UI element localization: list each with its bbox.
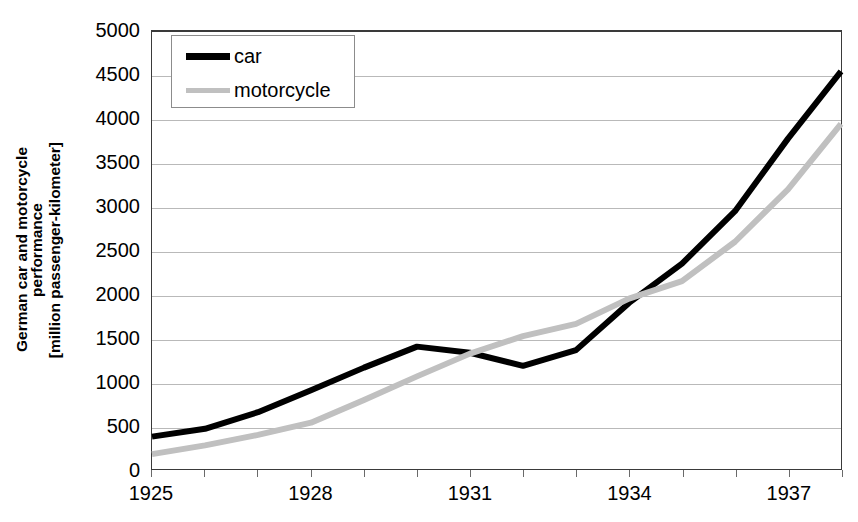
x-axis-tick: [736, 470, 737, 477]
y-axis-tick-labels: 0500100015002000250030003500400045005000: [78, 0, 146, 522]
x-axis-tick-labels: 19251928193119341937: [151, 482, 842, 516]
x-axis-tick: [204, 470, 205, 477]
y-axis-tick-label: 500: [107, 415, 140, 438]
x-axis-tick-label: 1937: [767, 482, 812, 505]
legend-swatch-motorcycle-icon: [186, 88, 230, 93]
x-axis-tick: [842, 470, 843, 477]
y-axis-tick-label: 0: [129, 459, 140, 482]
y-axis-title-line-2: performance: [29, 203, 45, 297]
y-axis-tick-label: 3500: [96, 151, 141, 174]
x-axis-tick-label: 1931: [448, 482, 493, 505]
legend: car motorcycle: [171, 35, 355, 108]
y-axis-title: German car and motorcycle performance [m…: [0, 0, 78, 500]
x-axis-tick: [470, 470, 471, 477]
x-axis-tick: [364, 470, 365, 477]
legend-item-motorcycle: motorcycle: [172, 72, 354, 108]
legend-label-car: car: [234, 46, 262, 66]
x-axis-tick: [683, 470, 684, 477]
y-axis-title-line-1: German car and motorcycle: [14, 147, 30, 352]
x-axis-tick: [151, 470, 152, 477]
y-axis-tick-label: 5000: [96, 19, 141, 42]
x-axis-ticks: [151, 470, 842, 480]
x-axis-tick: [789, 470, 790, 477]
legend-swatch-car-icon: [186, 53, 230, 60]
y-axis-tick-label: 2000: [96, 283, 141, 306]
x-axis-tick-label: 1928: [288, 482, 333, 505]
y-axis-title-line-3: [million passenger-kilometer]: [47, 142, 63, 358]
y-axis-tick-label: 2500: [96, 239, 141, 262]
line-chart: German car and motorcycle performance [m…: [0, 0, 858, 522]
x-axis-tick-label: 1925: [129, 482, 174, 505]
series-line-motorcycle: [152, 124, 841, 454]
series-line-car: [152, 71, 841, 436]
plot-area: car motorcycle: [151, 30, 842, 470]
x-axis-tick: [576, 470, 577, 477]
y-axis-tick-label: 4500: [96, 63, 141, 86]
x-axis-tick: [311, 470, 312, 477]
y-axis-tick-label: 1000: [96, 371, 141, 394]
x-axis-tick: [257, 470, 258, 477]
x-axis-tick: [523, 470, 524, 477]
x-axis-tick: [629, 470, 630, 477]
x-axis-tick: [417, 470, 418, 477]
y-axis-tick-label: 3000: [96, 195, 141, 218]
y-axis-tick-label: 1500: [96, 327, 141, 350]
x-axis-tick-label: 1934: [607, 482, 652, 505]
y-axis-tick-label: 4000: [96, 107, 141, 130]
legend-label-motorcycle: motorcycle: [234, 80, 331, 100]
legend-item-car: car: [172, 38, 354, 74]
